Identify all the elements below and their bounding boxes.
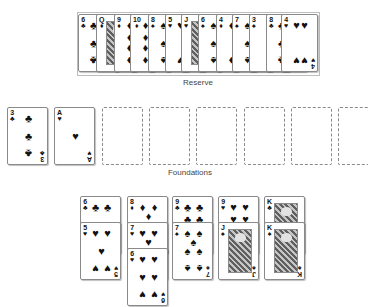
hearts-icon: ♥	[90, 228, 101, 239]
card-index: 4♥	[311, 57, 315, 69]
clubs-icon: ♣	[175, 205, 180, 211]
diamonds-icon: ♦	[219, 23, 223, 29]
card-index: 3♣	[40, 150, 45, 162]
card-index: 4♦	[219, 17, 223, 29]
hearts-icon: ♥	[130, 231, 134, 237]
card-index: 7♠	[175, 225, 179, 237]
foundation-card[interactable]: A♥A♥♥	[54, 107, 95, 165]
hearts-icon: ♥	[96, 246, 107, 257]
hearts-icon: ♥	[311, 57, 315, 63]
clubs-icon: ♣	[102, 202, 113, 213]
diamonds-icon: ♦	[130, 205, 134, 211]
hearts-icon: ♥	[299, 55, 310, 66]
face-card-art	[274, 229, 298, 273]
card-index: 5♥	[114, 265, 118, 277]
clubs-icon: ♣	[23, 113, 34, 124]
spades-icon: ♠	[182, 246, 193, 257]
spades-icon: ♠	[201, 23, 205, 29]
card-index: 5♥	[168, 17, 172, 29]
clubs-icon: ♣	[269, 23, 274, 29]
card-index: 3♠	[252, 17, 256, 29]
foundation-card[interactable]: 3♣3♣♣♣♣	[7, 107, 48, 165]
diamonds-icon: ♦	[117, 23, 121, 29]
reserve-card[interactable]: 4♥4♥♥♥♥♥	[281, 14, 318, 72]
spades-icon: ♠	[182, 263, 193, 274]
hearts-icon: ♥	[161, 291, 165, 297]
clubs-icon: ♣	[10, 116, 15, 122]
spades-icon: ♠	[194, 246, 205, 257]
tableau-card[interactable]: K♠K♠	[264, 222, 305, 280]
spades-icon: ♠	[268, 231, 272, 237]
card-index: A♥	[87, 150, 92, 162]
clubs-icon: ♣	[83, 205, 88, 211]
tableau-card[interactable]: 7♠7♠♠♠♠♠♠♠♠	[172, 222, 213, 280]
foundation-slot-empty[interactable]	[149, 107, 190, 165]
card-pips: ♣♣♣	[17, 113, 40, 159]
card-index: J♠	[252, 265, 256, 277]
hearts-icon: ♥	[137, 289, 148, 300]
card-index: 9♦	[117, 17, 121, 29]
hearts-icon: ♥	[137, 254, 148, 265]
card-index: 4♥	[284, 17, 288, 29]
card-index: K♠	[267, 225, 272, 237]
spades-icon: ♠	[252, 265, 256, 271]
card-index: 8♣	[269, 17, 274, 29]
diamonds-icon: ♦	[135, 23, 139, 29]
card-pips: ♥♥♥♥♥	[90, 228, 113, 274]
tableau-card[interactable]: 5♥5♥♥♥♥♥♥	[80, 222, 121, 280]
card-index: 9♥	[221, 199, 225, 211]
hearts-icon: ♥	[149, 289, 160, 300]
tableau-card[interactable]: J♠J♠	[218, 222, 259, 280]
spades-icon: ♠	[175, 231, 179, 237]
clubs-icon: ♣	[40, 150, 45, 156]
foundation-slot-empty[interactable]	[338, 107, 368, 165]
foundation-slot-empty[interactable]	[196, 107, 237, 165]
hearts-icon: ♥	[284, 23, 288, 29]
hearts-icon: ♥	[228, 202, 239, 213]
card-pips: ♥♥♥♥♥♥	[137, 254, 160, 300]
clubs-icon: ♣	[267, 205, 272, 211]
hearts-icon: ♥	[102, 228, 113, 239]
card-index: A♥	[57, 110, 62, 122]
foundation-slot-empty[interactable]	[244, 107, 285, 165]
hearts-icon: ♥	[184, 23, 188, 29]
reserve-label: Reserve	[173, 78, 223, 87]
hearts-icon: ♥	[221, 205, 225, 211]
hearts-icon: ♥	[57, 116, 61, 122]
hearts-icon: ♥	[149, 254, 160, 265]
card-index: 6♠	[201, 17, 205, 29]
hearts-icon: ♥	[70, 131, 81, 142]
clubs-icon: ♣	[194, 202, 205, 213]
hearts-icon: ♥	[168, 23, 172, 29]
spades-icon: ♠	[151, 23, 155, 29]
diamonds-icon: ♦	[100, 23, 104, 29]
face-card-art	[228, 229, 252, 273]
card-index: 3♣	[10, 110, 15, 122]
clubs-icon: ♣	[23, 131, 34, 142]
card-index: 8♦	[130, 199, 134, 211]
spades-icon: ♠	[252, 23, 256, 29]
clubs-icon: ♣	[90, 202, 101, 213]
clubs-icon: ♣	[81, 23, 86, 29]
card-pips: ♥	[64, 113, 87, 159]
clubs-icon: ♣	[23, 148, 34, 159]
hearts-icon: ♥	[240, 202, 251, 213]
card-index: 8♠	[151, 17, 155, 29]
card-index: J♠	[221, 225, 225, 237]
foundation-slot-empty[interactable]	[291, 107, 332, 165]
spades-icon: ♠	[298, 265, 302, 271]
card-index: 7♥	[130, 225, 134, 237]
foundation-slot-empty[interactable]	[102, 107, 143, 165]
spades-icon: ♠	[221, 231, 225, 237]
hearts-icon: ♥	[102, 263, 113, 274]
hearts-icon: ♥	[149, 272, 160, 283]
hearts-icon: ♥	[130, 257, 134, 263]
card-index: 6♣	[81, 17, 86, 29]
spades-icon: ♠	[194, 263, 205, 274]
foundations-label: Foundations	[155, 168, 225, 177]
card-index: Q♦	[99, 17, 104, 29]
tableau-card[interactable]: 6♥6♥♥♥♥♥♥♥	[127, 248, 168, 306]
hearts-icon: ♥	[87, 150, 91, 156]
card-index: 9♣	[175, 199, 180, 211]
card-index: 7♠	[206, 265, 210, 277]
